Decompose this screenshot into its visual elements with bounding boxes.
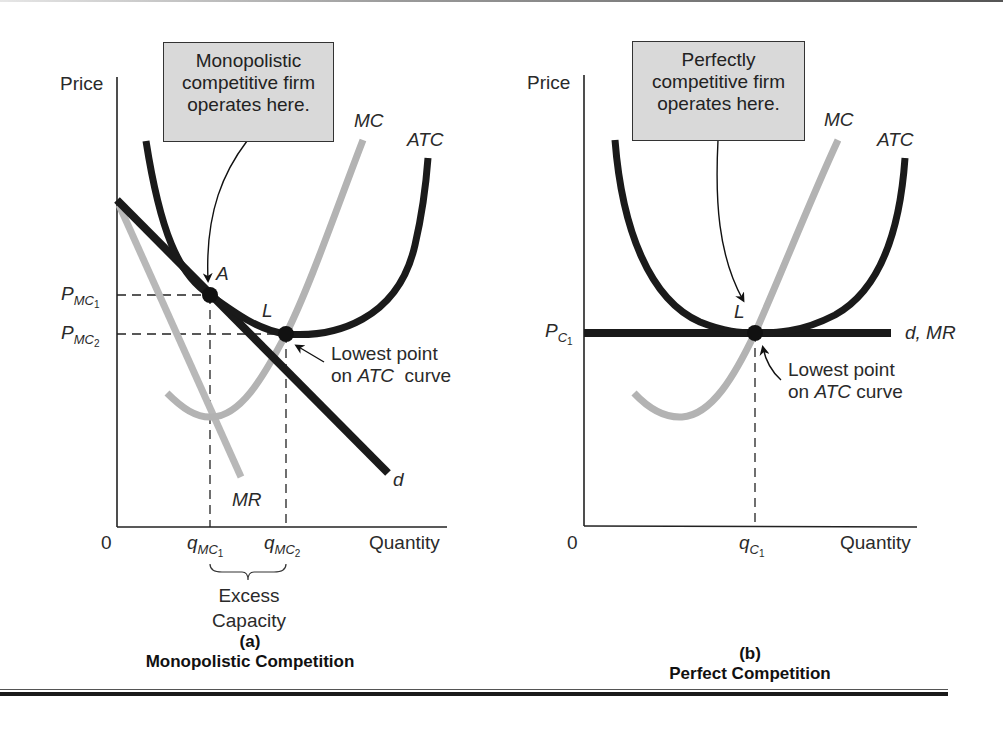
callout-arrow-a (208, 141, 247, 280)
point-l-b (747, 325, 763, 341)
p-sub: MC (74, 332, 94, 347)
p-main: P (61, 283, 74, 304)
caption-b-title: Perfect Competition (610, 664, 890, 684)
lowest-point-note-a: Lowest point on ATC curve (331, 343, 451, 387)
callout-monopolistic: Monopolistic competitive firm operates h… (163, 42, 334, 142)
q-main: q (739, 532, 750, 553)
atc-curve-b (615, 140, 905, 333)
p-main: P (61, 322, 74, 343)
caption-a-letter: (a) (110, 632, 390, 652)
caption-a-title: Monopolistic Competition (110, 652, 390, 672)
point-a (202, 287, 218, 303)
note-post: curve (394, 365, 451, 386)
caption-b: (b) Perfect Competition (610, 644, 890, 684)
callout-arrow-b (717, 140, 743, 300)
d-label-a: d (393, 469, 404, 491)
p-main: P (545, 320, 558, 341)
mc-label-a: MC (354, 110, 384, 132)
p-subsub: 1 (94, 299, 100, 310)
excess-line-1: Excess (208, 583, 290, 608)
bottom-rule-thick (0, 692, 948, 696)
mr-label-a: MR (232, 489, 262, 511)
y-tick-p-mc2: PMC2 (61, 322, 99, 344)
demand-curve-a (117, 200, 388, 473)
callout-line-1: Perfectly (633, 49, 804, 71)
y-axis-label-b: Price (527, 72, 570, 94)
note-italic: ATC (357, 365, 394, 386)
y-axis-label-a: Price (60, 73, 103, 95)
atc-label-b: ATC (877, 129, 914, 151)
excess-capacity-label: Excess Capacity (208, 583, 290, 633)
p-sub: MC (74, 293, 94, 308)
note-line-1: Lowest point (331, 343, 451, 365)
p-subsub: 2 (94, 338, 100, 349)
lowest-point-arrow-a (297, 346, 324, 362)
excess-capacity-brace (210, 564, 286, 580)
point-l-label-b: L (734, 301, 745, 323)
y-tick-p-c1: PC1 (545, 320, 573, 342)
x-axis-label-b: Quantity (840, 532, 911, 554)
callout-line-3: operates here. (633, 93, 804, 115)
callout-line-2: competitive firm (164, 72, 333, 94)
point-a-label: A (216, 263, 229, 285)
lowest-point-arrow-b (763, 348, 781, 380)
point-l-label-a: L (262, 300, 273, 322)
note-post: curve (851, 381, 903, 402)
x-tick-q-mc2: qMC2 (264, 532, 300, 554)
q-subsub: 2 (295, 548, 301, 559)
q-subsub: 1 (759, 548, 765, 559)
point-l-a (278, 326, 294, 342)
q-main: q (187, 532, 198, 553)
panel-b-plot (584, 75, 917, 527)
atc-curve-a (146, 141, 428, 335)
y-tick-p-mc1: PMC1 (61, 283, 99, 305)
excess-line-2: Capacity (208, 608, 290, 633)
figure-monopolistic-vs-perfect-competition: Monopolistic competitive firm operates h… (0, 0, 1003, 739)
q-main: q (264, 532, 275, 553)
note-line-1: Lowest point (788, 359, 903, 381)
x-tick-q-c1: qC1 (739, 532, 765, 554)
callout-line-3: operates here. (164, 94, 333, 116)
mc-label-b: MC (824, 109, 854, 131)
p-sub: C (558, 330, 567, 345)
panel-a-plot (117, 77, 447, 580)
note-pre: on (331, 365, 357, 386)
note-italic: ATC (814, 381, 851, 402)
callout-line-2: competitive firm (633, 71, 804, 93)
p-subsub: 1 (567, 336, 573, 347)
callout-line-1: Monopolistic (164, 50, 333, 72)
x-axis-label-a: Quantity (369, 532, 440, 554)
q-sub: C (750, 542, 759, 557)
caption-b-letter: (b) (610, 644, 890, 664)
note-line-2: on ATC curve (331, 365, 451, 387)
q-sub: MC (275, 542, 295, 557)
q-sub: MC (198, 542, 218, 557)
x-tick-q-mc1: qMC1 (187, 532, 223, 554)
callout-perfect: Perfectly competitive firm operates here… (632, 41, 805, 141)
note-line-2: on ATC curve (788, 381, 903, 403)
caption-a: (a) Monopolistic Competition (110, 632, 390, 672)
note-pre: on (788, 381, 814, 402)
mr-curve-a (119, 205, 241, 477)
origin-label-b: 0 (567, 532, 578, 554)
atc-label-a: ATC (407, 129, 444, 151)
lowest-point-note-b: Lowest point on ATC curve (788, 359, 903, 403)
d-mr-label-b: d, MR (905, 322, 956, 344)
x-axis-b (584, 526, 917, 527)
q-subsub: 1 (218, 548, 224, 559)
bottom-rule-thin (0, 689, 948, 690)
origin-label-a: 0 (101, 532, 112, 554)
